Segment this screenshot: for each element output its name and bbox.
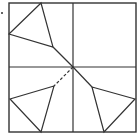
center-to-lr-triangle-line bbox=[73, 67, 92, 87]
geometry-diagram bbox=[0, 0, 140, 137]
ul-triangle-to-center-line bbox=[53, 47, 73, 67]
upper-left-triangle bbox=[9, 3, 53, 47]
center-to-ll-triangle-dashed-line bbox=[54, 67, 73, 86]
marker-dot bbox=[1, 12, 3, 14]
lower-left-triangle bbox=[10, 86, 54, 132]
lower-right-triangle bbox=[92, 87, 135, 132]
